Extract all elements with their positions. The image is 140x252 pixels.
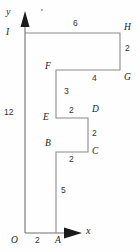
vertex-label-E: E — [43, 113, 49, 123]
dust-speck-icon — [41, 9, 43, 11]
length-label-HG: 2 — [125, 44, 130, 53]
vertex-label-A: A — [55, 236, 61, 246]
polygon-outline — [25, 33, 120, 233]
length-label-OI: 12 — [4, 108, 13, 117]
vertex-label-G: G — [124, 73, 131, 83]
x-axis-label: x — [86, 226, 90, 236]
length-label-BC: 2 — [69, 155, 74, 164]
length-label-IH: 6 — [73, 19, 78, 28]
vertex-label-H: H — [124, 23, 131, 33]
vertex-label-B: B — [45, 139, 51, 149]
vertex-label-D: D — [92, 105, 99, 115]
vertex-label-C: C — [92, 147, 98, 157]
length-label-ED: 2 — [69, 106, 74, 115]
x-axis-arrowhead — [64, 228, 82, 239]
y-axis-arrowhead — [21, 11, 30, 27]
length-label-FG: 4 — [92, 74, 97, 83]
coordinate-figure-svg — [0, 0, 140, 252]
figure-root: y x I H G F E D C B A O 6 2 4 3 2 2 2 5 … — [0, 0, 140, 252]
vertex-label-F: F — [45, 62, 51, 72]
length-label-DC: 2 — [92, 129, 97, 138]
vertex-label-I: I — [6, 28, 9, 38]
y-axis-label: y — [6, 7, 10, 17]
length-label-AB: 5 — [61, 186, 66, 195]
length-label-OA: 2 — [35, 236, 40, 245]
vertex-label-O: O — [11, 236, 18, 246]
length-label-FE: 3 — [64, 87, 69, 96]
